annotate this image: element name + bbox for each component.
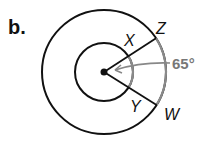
label-y: Y (130, 98, 142, 115)
inner-arc-xy (128, 56, 133, 87)
angle-label: 65° (172, 55, 195, 72)
label-w: W (164, 106, 181, 123)
outer-arc-zw (156, 38, 166, 105)
problem-label: b. (8, 16, 26, 38)
angle-pointer (115, 63, 170, 70)
concentric-circles-diagram: b. X Z 65° Y W (0, 0, 212, 144)
label-x: X (123, 32, 136, 49)
center-point (101, 69, 108, 76)
label-z: Z (155, 20, 167, 37)
